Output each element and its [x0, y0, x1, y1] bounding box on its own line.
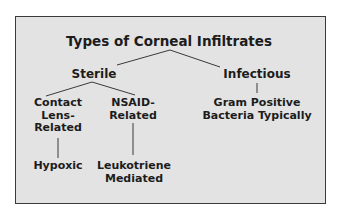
leukotriene-line-2: Mediated — [97, 173, 171, 186]
node-hypoxic: Hypoxic — [33, 160, 82, 173]
edge-sterile-nsaid — [92, 82, 135, 95]
node-root-title: Types of Corneal Infiltrates — [66, 33, 272, 49]
contact-lens-line-3: Related — [34, 122, 82, 135]
infectious-label: Infectious — [223, 67, 290, 81]
edge-root-infectious — [170, 50, 220, 67]
sterile-label: Sterile — [72, 67, 117, 81]
contact-lens-line-1: Contact — [34, 97, 82, 110]
leukotriene-line-1: Leukotriene — [97, 160, 171, 173]
gram-positive-line-2: Bacteria Typically — [202, 110, 311, 123]
node-gram-positive: Gram Positive Bacteria Typically — [202, 97, 311, 122]
edge-sterile-contact — [46, 82, 92, 96]
nsaid-line-1: NSAID- — [109, 97, 157, 110]
node-nsaid-related: NSAID- Related — [109, 97, 157, 122]
edge-root-sterile — [117, 50, 170, 65]
nsaid-line-2: Related — [109, 110, 157, 123]
node-infectious: Infectious — [223, 67, 290, 81]
node-leukotriene-mediated: Leukotriene Mediated — [97, 160, 171, 185]
node-sterile: Sterile — [72, 67, 117, 81]
gram-positive-line-1: Gram Positive — [202, 97, 311, 110]
node-contact-lens-related: Contact Lens- Related — [34, 97, 82, 135]
hypoxic-label: Hypoxic — [33, 160, 82, 173]
root-label: Types of Corneal Infiltrates — [66, 33, 272, 49]
